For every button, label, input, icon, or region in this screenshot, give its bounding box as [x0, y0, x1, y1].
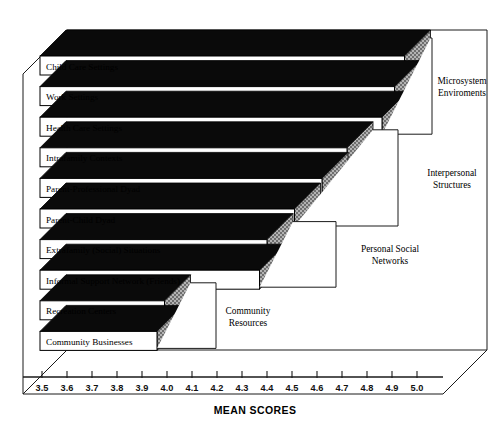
x-axis-title: MEAN SCORES: [214, 404, 297, 416]
axis-tick-label: 3.8: [111, 383, 124, 393]
bar-category-label: Child Care Settings: [46, 62, 118, 72]
axis-tick-label: 3.9: [136, 383, 149, 393]
axis-tick-label: 4.7: [336, 383, 349, 393]
bar-category-label: Parent-Child Dyad: [46, 215, 116, 225]
bar-top-face: [40, 30, 431, 56]
axis-tick-label: 4.5: [286, 383, 299, 393]
chart-canvas: 3.53.63.73.83.94.04.14.24.34.44.54.64.74…: [0, 0, 500, 433]
bar-category-label: Community Businesses: [46, 337, 133, 347]
axis-tick-label: 3.5: [36, 383, 49, 393]
bar-category-label: Recreation Centers: [46, 306, 117, 316]
axis-tick-label: 4.2: [211, 383, 224, 393]
group-label-line1: Interpersonal: [427, 168, 477, 178]
group-label-line2: Structures: [433, 180, 471, 190]
axis-tick-label: 4.8: [361, 383, 374, 393]
group-label-line1: Community: [226, 306, 271, 316]
axis-tick-label: 3.7: [86, 383, 99, 393]
bar-category-label: Work Settings: [46, 92, 99, 102]
axis-tick-label: 4.4: [261, 383, 275, 393]
group-label-line1: Personal Social: [361, 244, 419, 254]
group-label-line2: Resources: [229, 318, 268, 328]
axis-tick-label: 4.9: [386, 383, 399, 393]
bar-category-label: Extrafamily (Social) Situations: [46, 245, 161, 255]
axis-tick-label: 4.1: [186, 383, 199, 393]
bar-category-label: Parent-Professional Dyad: [46, 184, 141, 194]
group-label-line2: Enviroments: [438, 88, 486, 98]
group-label-line2: Networks: [372, 256, 409, 266]
axis-tick-label: 3.6: [61, 383, 74, 393]
axis-tick-label: 4.6: [311, 383, 324, 393]
bar-category-label: Informal Support Network (Friends): [46, 276, 180, 286]
axis-tick-label: 4.3: [236, 383, 249, 393]
axis-tick-label: 5.0: [411, 383, 424, 393]
axis-tick-labels: 3.53.63.73.83.94.04.14.24.34.44.54.64.74…: [36, 383, 424, 393]
group-label-line1: Microsystem: [438, 76, 488, 86]
bar-category-label: Health Care Settings: [46, 123, 122, 133]
mean-scores-bar-chart: 3.53.63.73.83.94.04.14.24.34.44.54.64.74…: [0, 0, 500, 433]
axis-tick-label: 4.0: [161, 383, 174, 393]
bar-category-label: Intrafamily Contexts: [46, 153, 123, 163]
